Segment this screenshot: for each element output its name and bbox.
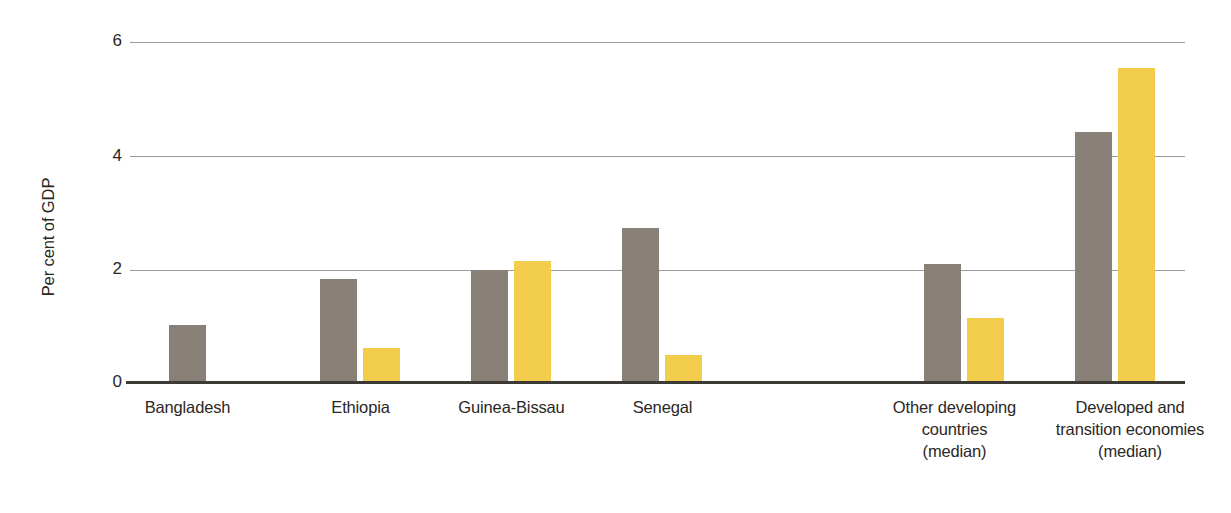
- y-axis-title: Per cent of GDP: [39, 67, 65, 407]
- x-tick-label-other-developing-countries-line-3: (median): [872, 440, 1037, 462]
- x-tick-label-ethiopia-line-1: Ethiopia: [331, 398, 389, 416]
- x-tick-label-other-developing-countries: Other developing countries (median): [872, 396, 1037, 462]
- x-tick-label-other-developing-countries-line-1: Other developing: [872, 396, 1037, 418]
- bar-senegal-series-1: [622, 228, 659, 383]
- x-tick-label-bangladesh-line-1: Bangladesh: [145, 398, 231, 416]
- bar-developed-transition-series-1: [1075, 132, 1112, 383]
- bar-guinea-bissau-series-2: [514, 261, 551, 383]
- x-tick-label-developed-transition-economies: Developed and transition economies (medi…: [1040, 396, 1220, 462]
- x-tick-label-senegal: Senegal: [585, 396, 740, 418]
- x-tick-label-developed-transition-economies-line-2: transition economies: [1040, 418, 1220, 440]
- x-tick-label-developed-transition-economies-line-1: Developed and: [1040, 396, 1220, 418]
- x-tick-label-guinea-bissau: Guinea-Bissau: [434, 396, 589, 418]
- x-tick-label-other-developing-countries-line-2: countries: [872, 418, 1037, 440]
- bar-other-developing-countries-series-1: [924, 264, 961, 383]
- x-axis-line: [126, 381, 1185, 384]
- y-tick-label-0: 0: [86, 372, 122, 392]
- bar-other-developing-countries-series-2: [967, 318, 1004, 383]
- bar-ethiopia-series-2: [363, 348, 400, 383]
- y-tick-label-4: 4: [86, 146, 122, 166]
- gridline-4: [130, 156, 1185, 157]
- y-tick-label-2: 2: [86, 259, 122, 279]
- x-tick-label-guinea-bissau-line-1: Guinea-Bissau: [458, 398, 564, 416]
- x-tick-label-ethiopia: Ethiopia: [283, 396, 438, 418]
- plot-area: [130, 42, 1185, 383]
- bar-guinea-bissau-series-1: [471, 270, 508, 383]
- x-tick-label-senegal-line-1: Senegal: [633, 398, 693, 416]
- bar-chart: Per cent of GDP 6 4 2 0 Bangladesh Ethio…: [0, 0, 1231, 513]
- bar-developed-transition-series-2: [1118, 68, 1155, 383]
- x-tick-label-developed-transition-economies-line-3: (median): [1040, 440, 1220, 462]
- bar-ethiopia-series-1: [320, 279, 357, 383]
- bar-bangladesh-series-1: [169, 325, 206, 383]
- x-tick-label-bangladesh: Bangladesh: [110, 396, 265, 418]
- gridline-6: [130, 42, 1185, 43]
- bar-senegal-series-2: [665, 355, 702, 383]
- y-tick-label-6: 6: [86, 31, 122, 51]
